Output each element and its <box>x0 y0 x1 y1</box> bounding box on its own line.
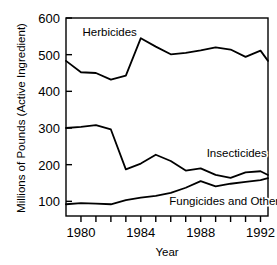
series-label-insecticides: Insecticides <box>207 147 267 159</box>
x-tick-label-1988: 1988 <box>186 225 215 240</box>
series-label-fungicides: Fungicides and Other* <box>169 195 277 207</box>
x-tick-label-1992: 1992 <box>246 225 275 240</box>
x-tick-label-1980: 1980 <box>67 225 96 240</box>
series-label-herbicides: Herbicides <box>82 26 137 38</box>
y-tick-label-100: 100 <box>38 194 60 209</box>
y-tick-label-400: 400 <box>38 84 60 99</box>
y-tick-label-500: 500 <box>38 48 60 63</box>
pesticide-usage-chart: Millions of Pounds (Active Ingredient) 1… <box>0 0 277 265</box>
chart-plot-area: 1002003004005006001980198419881992YearHe… <box>0 0 277 265</box>
y-tick-label-200: 200 <box>38 158 60 173</box>
y-tick-label-300: 300 <box>38 121 60 136</box>
series-line-herbicides <box>66 38 268 79</box>
x-tick-label-1984: 1984 <box>126 225 155 240</box>
x-axis-title: Year <box>155 246 178 258</box>
y-tick-label-600: 600 <box>38 11 60 26</box>
plot-frame <box>66 18 268 216</box>
